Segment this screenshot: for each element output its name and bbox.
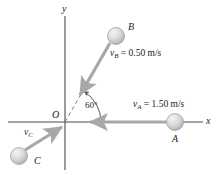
velocity-magnitude-b: 0.50 — [129, 48, 146, 58]
velocity-magnitude-a: 1.50 — [152, 99, 169, 109]
body-label-c: C — [34, 156, 41, 166]
velocity-subscript-a: A — [137, 103, 141, 110]
ball-c — [11, 148, 28, 165]
y-axis-label: y — [62, 4, 66, 14]
velocity-label-c: vC — [24, 128, 33, 139]
velocity-units-b: m/s — [148, 48, 162, 58]
velocity-vector-b — [80, 43, 110, 95]
body-label-a: A — [172, 134, 178, 144]
velocity-subscript-b: B — [114, 52, 118, 59]
velocity-label-a: vA = 1.50 m/s — [133, 100, 184, 111]
velocity-equals-a: = — [144, 99, 149, 109]
velocity-subscript-c: C — [28, 131, 33, 138]
body-label-b: B — [128, 22, 134, 32]
origin-label: O — [52, 110, 59, 120]
ball-b — [108, 28, 125, 45]
velocity-equals-b: = — [121, 48, 126, 58]
physics-vector-diagram: y x O 60° B A C vB = 0.50 m/s vA = 1.50 … — [0, 0, 217, 175]
velocity-units-a: m/s — [171, 99, 185, 109]
x-axis-label: x — [206, 116, 210, 126]
ball-a — [167, 114, 184, 131]
velocity-label-b: vB = 0.50 m/s — [110, 49, 161, 60]
diagram-canvas — [0, 0, 217, 175]
angle-label: 60° — [85, 101, 98, 110]
